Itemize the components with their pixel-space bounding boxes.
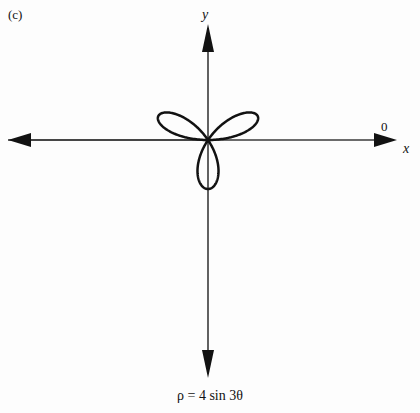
origin-label: 0 bbox=[381, 120, 388, 133]
polar-rose-figure: (c) y x 0 ρ = 4 sin 3θ bbox=[0, 0, 420, 413]
equation-caption: ρ = 4 sin 3θ bbox=[0, 389, 420, 403]
x-axis-label: x bbox=[403, 142, 409, 156]
axis-group bbox=[8, 24, 397, 378]
panel-label: (c) bbox=[8, 8, 22, 21]
polar-plot-canvas bbox=[0, 0, 420, 413]
y-axis-negative-arrowhead bbox=[202, 350, 214, 378]
x-axis-arrowhead bbox=[374, 133, 397, 147]
y-axis-arrowhead bbox=[202, 24, 214, 52]
y-axis-label: y bbox=[202, 8, 208, 22]
x-axis-negative-arrowhead bbox=[8, 133, 31, 147]
